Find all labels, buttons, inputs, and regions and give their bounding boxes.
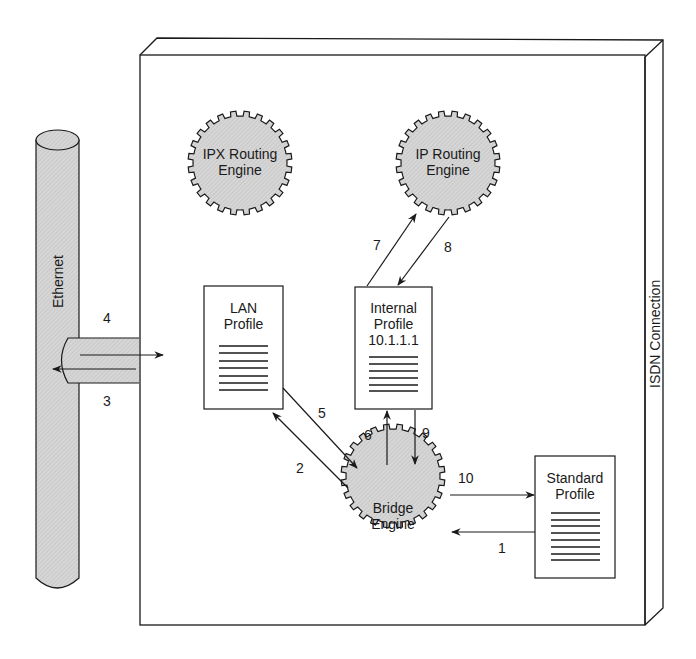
bridge-engine: Bridge Engine (343, 500, 443, 532)
step-3: 3 (103, 393, 111, 409)
ethernet-connector (62, 338, 140, 383)
step-4: 4 (103, 310, 111, 326)
step-1: 1 (498, 540, 506, 556)
step-8: 8 (444, 239, 452, 255)
internal-profile: Internal Profile 10.1.1.1 (355, 300, 432, 348)
step-2: 2 (296, 460, 304, 476)
standard-profile: Standard Profile (535, 470, 615, 502)
profile-label-line2: Profile (355, 316, 432, 332)
engine-label-line2: Engine (398, 162, 498, 178)
diagram-canvas (0, 0, 696, 659)
profile-label-line3: 10.1.1.1 (355, 332, 432, 348)
profile-label-line1: Standard (535, 470, 615, 486)
engine-label-line1: IPX Routing (190, 146, 290, 162)
profile-label-line1: LAN (204, 300, 283, 316)
ethernet-label: Ethernet (50, 255, 66, 308)
engine-label-line1: IP Routing (398, 146, 498, 162)
step-6: 6 (364, 427, 372, 443)
lan-profile: LAN Profile (204, 300, 283, 332)
step-5: 5 (318, 405, 326, 421)
ipx-routing-engine: IPX Routing Engine (190, 146, 290, 178)
engine-label-line2: Engine (343, 516, 443, 532)
engine-label-line1: Bridge (343, 500, 443, 516)
ip-routing-engine: IP Routing Engine (398, 146, 498, 178)
step-10: 10 (458, 470, 474, 486)
profile-label-line2: Profile (535, 486, 615, 502)
profile-label-line2: Profile (204, 316, 283, 332)
engine-label-line2: Engine (190, 162, 290, 178)
step-7: 7 (373, 237, 381, 253)
step-9: 9 (422, 425, 430, 441)
isdn-connection-label: ISDN Connection (647, 280, 663, 388)
profile-label-line1: Internal (355, 300, 432, 316)
